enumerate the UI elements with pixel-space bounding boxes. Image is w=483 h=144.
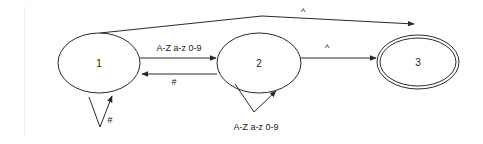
state-2[interactable]: 2 (217, 33, 301, 93)
edge-2-to-3-label: ^ (325, 43, 330, 53)
edge-1-to-3-line[interactable] (100, 16, 414, 33)
edge-1-to-3-label: ^ (301, 7, 306, 17)
transition-1-self-loop[interactable]: # (89, 96, 113, 127)
state-3-label: 3 (415, 57, 421, 68)
edge-1-to-2-label: A-Z a-z 0-9 (156, 43, 201, 53)
transition-2-to-3[interactable]: ^ (301, 43, 376, 58)
transition-1-to-3[interactable]: ^ (100, 7, 414, 33)
state-1-label: 1 (96, 58, 102, 69)
edge-1-self-loop-label: # (107, 115, 112, 125)
transition-1-to-2[interactable]: A-Z a-z 0-9 (140, 43, 216, 58)
state-3-accepting[interactable]: 3 (377, 35, 459, 89)
state-1[interactable]: 1 (58, 33, 140, 93)
edge-2-to-1-label: # (171, 77, 176, 87)
state-diagram: ^ 1 2 3 A-Z a-z 0-9 # (0, 0, 483, 144)
edge-2-self-loop-label: A-Z a-z 0-9 (233, 122, 278, 132)
state-2-label: 2 (256, 58, 262, 69)
transition-2-to-1[interactable]: # (142, 74, 217, 87)
diagram-canvas: ^ 1 2 3 A-Z a-z 0-9 # (0, 0, 483, 144)
